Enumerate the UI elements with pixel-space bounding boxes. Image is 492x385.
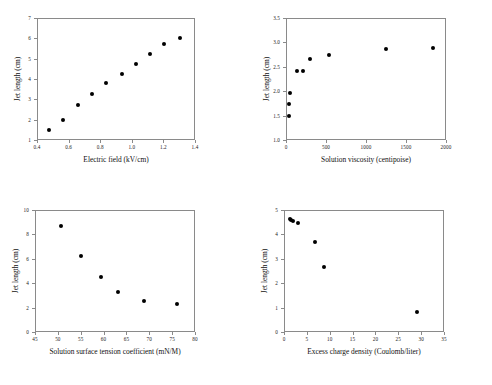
y-tick bbox=[281, 234, 284, 235]
data-point bbox=[288, 91, 292, 95]
x-tick bbox=[58, 332, 59, 335]
y-tick bbox=[281, 332, 284, 333]
y-tick bbox=[34, 79, 37, 80]
y-tick bbox=[281, 308, 284, 309]
x-tick-label: 70 bbox=[147, 336, 152, 342]
data-point bbox=[384, 47, 388, 51]
y-tick-label: 5 bbox=[246, 207, 278, 213]
data-point bbox=[79, 254, 83, 258]
x-tick bbox=[195, 140, 196, 143]
y-tick bbox=[34, 38, 37, 39]
data-point bbox=[134, 62, 138, 66]
x-tick bbox=[284, 332, 285, 335]
data-point bbox=[431, 46, 435, 50]
data-point bbox=[327, 53, 331, 57]
y-tick bbox=[283, 140, 286, 141]
x-axis-title: Solution viscosity (centipoise) bbox=[321, 155, 411, 164]
x-tick-label: 1500 bbox=[401, 144, 412, 150]
data-point bbox=[313, 240, 317, 244]
y-tick bbox=[281, 210, 284, 211]
x-axis-title: Excess charge density (Coulomb/liter) bbox=[307, 347, 420, 356]
chart-panel-2: 45505560657075800246810Solution surface … bbox=[0, 192, 246, 384]
x-tick bbox=[69, 140, 70, 143]
data-point bbox=[322, 265, 326, 269]
x-tick-label: 20 bbox=[373, 336, 378, 342]
x-tick bbox=[35, 332, 36, 335]
data-point bbox=[47, 128, 51, 132]
y-tick bbox=[32, 234, 35, 235]
data-point bbox=[162, 42, 166, 46]
x-tick-label: 500 bbox=[322, 144, 330, 150]
y-tick-label: 1.5 bbox=[246, 113, 280, 119]
x-tick-label: 65 bbox=[124, 336, 129, 342]
x-axis-title: Solution surface tension coefficient (mN… bbox=[49, 347, 180, 356]
x-tick bbox=[366, 140, 367, 143]
y-tick bbox=[283, 42, 286, 43]
y-tick-label: 3.0 bbox=[246, 39, 280, 45]
y-tick bbox=[281, 259, 284, 260]
x-tick-label: 80 bbox=[192, 336, 197, 342]
y-axis-title: Jet length (cm) bbox=[262, 57, 271, 101]
x-tick-label: 25 bbox=[396, 336, 401, 342]
x-tick-label: 2000 bbox=[441, 144, 452, 150]
x-tick-label: 50 bbox=[55, 336, 60, 342]
plot-area bbox=[284, 210, 444, 332]
x-axis-title: Electric field (kV/cm) bbox=[83, 155, 148, 164]
x-tick bbox=[163, 140, 164, 143]
data-point bbox=[296, 221, 300, 225]
y-axis-title: Jet length (cm) bbox=[13, 57, 22, 101]
data-point bbox=[295, 69, 299, 73]
y-tick-label: 3.5 bbox=[246, 15, 280, 21]
x-tick bbox=[330, 332, 331, 335]
x-tick-label: 35 bbox=[441, 336, 446, 342]
chart-panel-3: 05101520253035012345Excess charge densit… bbox=[246, 192, 492, 384]
y-tick-label: 10 bbox=[0, 207, 29, 213]
x-tick-label: 15 bbox=[350, 336, 355, 342]
x-tick-label: 1000 bbox=[361, 144, 372, 150]
x-tick bbox=[132, 140, 133, 143]
multi-panel-scatter-figure: 0.40.60.81.01.21.41234567Electric field … bbox=[0, 0, 492, 385]
x-tick bbox=[100, 140, 101, 143]
y-tick-label: 8 bbox=[0, 231, 29, 237]
y-tick bbox=[34, 120, 37, 121]
x-tick bbox=[172, 332, 173, 335]
x-tick-label: 45 bbox=[32, 336, 37, 342]
x-tick bbox=[81, 332, 82, 335]
chart-panel-0: 0.40.60.81.01.21.41234567Electric field … bbox=[0, 0, 246, 192]
x-tick bbox=[406, 140, 407, 143]
y-tick bbox=[283, 67, 286, 68]
plot-area bbox=[35, 210, 195, 332]
y-tick bbox=[34, 59, 37, 60]
x-tick-label: 30 bbox=[418, 336, 423, 342]
y-tick bbox=[34, 99, 37, 100]
data-point bbox=[59, 224, 63, 228]
data-point bbox=[301, 69, 305, 73]
x-tick-label: 0.8 bbox=[97, 144, 104, 150]
data-point bbox=[142, 299, 146, 303]
y-tick bbox=[34, 140, 37, 141]
x-tick bbox=[37, 140, 38, 143]
x-tick bbox=[398, 332, 399, 335]
y-tick bbox=[283, 91, 286, 92]
data-point bbox=[99, 275, 103, 279]
y-tick bbox=[283, 18, 286, 19]
data-point bbox=[308, 57, 312, 61]
x-tick bbox=[307, 332, 308, 335]
x-tick bbox=[104, 332, 105, 335]
x-tick-label: 1.4 bbox=[192, 144, 199, 150]
x-tick-label: 55 bbox=[78, 336, 83, 342]
data-point bbox=[291, 219, 295, 223]
data-point bbox=[116, 290, 120, 294]
chart-panel-1: 05001000150020001.01.52.02.53.03.5Soluti… bbox=[246, 0, 492, 192]
y-tick-label: 7 bbox=[0, 15, 31, 21]
y-tick bbox=[32, 332, 35, 333]
data-point bbox=[148, 52, 152, 56]
y-tick-label: 0 bbox=[246, 329, 278, 335]
plot-area bbox=[37, 18, 195, 140]
y-axis-title: Jet length (cm) bbox=[11, 249, 20, 293]
x-tick bbox=[353, 332, 354, 335]
data-point bbox=[90, 92, 94, 96]
y-tick-label: 0 bbox=[0, 329, 29, 335]
y-tick-label: 6 bbox=[0, 35, 31, 41]
y-tick bbox=[281, 283, 284, 284]
